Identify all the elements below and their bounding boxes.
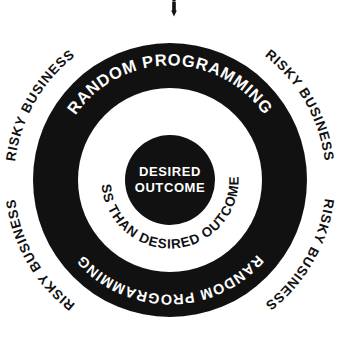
bullseye-line-2: OUTCOME: [135, 180, 206, 195]
target-diagram: RANDOM PROGRAMMING RANDOM PROGRAMMING LE…: [0, 0, 343, 362]
diagram-canvas: RANDOM PROGRAMMING RANDOM PROGRAMMING LE…: [0, 0, 343, 362]
bullseye-label: DESIRED OUTCOME: [135, 164, 206, 195]
bullseye-line-1: DESIRED: [139, 164, 201, 179]
